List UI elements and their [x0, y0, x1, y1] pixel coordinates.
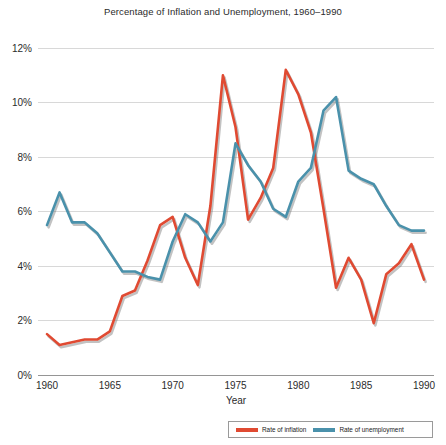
x-tick-label: 1980 — [287, 380, 310, 391]
legend-swatch-unemployment — [313, 428, 335, 432]
x-axis-tick-labels: 1960196519701975198019851990 — [36, 380, 436, 391]
chart-plot-area: 0%2%4%6%8%10%12% 19601965197019751980198… — [0, 0, 446, 418]
legend-label-unemployment: Rate of unemployment — [339, 426, 403, 433]
y-tick-label: 10% — [12, 97, 32, 108]
x-axis-title: Year — [226, 395, 247, 406]
chart-legend: Rate of inflation Rate of unemployment — [228, 421, 433, 438]
y-tick-label: 6% — [18, 206, 33, 217]
y-tick-label: 4% — [18, 261, 33, 272]
y-tick-label: 2% — [18, 315, 33, 326]
y-tick-label: 12% — [12, 43, 32, 54]
series-line-inflation — [47, 70, 424, 345]
y-axis-tick-labels: 0%2%4%6%8%10%12% — [12, 43, 32, 381]
x-tick-label: 1990 — [413, 380, 436, 391]
data-series — [47, 70, 426, 347]
y-tick-label: 8% — [18, 152, 33, 163]
x-tick-label: 1960 — [36, 380, 59, 391]
legend-item-unemployment[interactable]: Rate of unemployment — [313, 426, 403, 433]
y-tick-label: 0% — [18, 370, 33, 381]
legend-item-inflation[interactable]: Rate of inflation — [236, 426, 306, 433]
x-tick-label: 1965 — [99, 380, 122, 391]
x-tick-label: 1985 — [350, 380, 373, 391]
chart-container: Percentage of Inflation and Unemployment… — [0, 0, 446, 445]
x-tick-label: 1970 — [162, 380, 185, 391]
x-tick-label: 1975 — [224, 380, 247, 391]
legend-swatch-inflation — [236, 428, 258, 432]
legend-label-inflation: Rate of inflation — [262, 426, 306, 433]
